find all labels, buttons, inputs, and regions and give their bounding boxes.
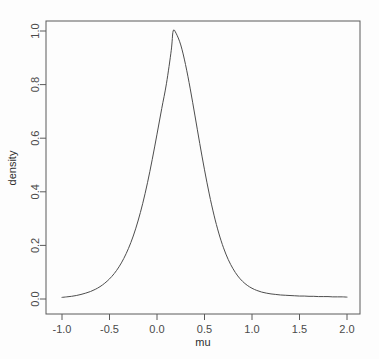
x-tick-label: 2.0 — [339, 323, 354, 335]
density-plot-figure: -1.0-0.50.00.51.01.52.0 0.00.20.40.60.81… — [0, 0, 379, 359]
y-tick-label: 0.2 — [29, 238, 41, 253]
y-axis-title: density — [6, 150, 18, 185]
figure-background — [0, 0, 379, 359]
y-tick-label: 0.0 — [29, 291, 41, 306]
y-tick-label: 0.6 — [29, 131, 41, 146]
plot-canvas: -1.0-0.50.00.51.01.52.0 0.00.20.40.60.81… — [0, 0, 379, 359]
x-tick-label: -0.5 — [100, 323, 119, 335]
x-tick-label: -1.0 — [53, 323, 72, 335]
x-tick-label: 1.0 — [244, 323, 259, 335]
x-axis-title: mu — [195, 336, 210, 348]
y-tick-label: 1.0 — [29, 23, 41, 38]
y-tick-label: 0.8 — [29, 77, 41, 92]
y-tick-label: 0.4 — [29, 184, 41, 199]
x-tick-label: 0.5 — [197, 323, 212, 335]
x-tick-label: 0.0 — [149, 323, 164, 335]
x-tick-label: 1.5 — [292, 323, 307, 335]
